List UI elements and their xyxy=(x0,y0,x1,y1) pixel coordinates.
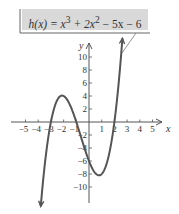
y-axis-label: y xyxy=(78,40,84,51)
y-tick-label: 6 xyxy=(83,78,88,88)
y-tick-label: 2 xyxy=(83,104,88,114)
y-tick-label: 10 xyxy=(78,52,88,62)
y-tick-label: −10 xyxy=(73,182,88,192)
x-tick-label: −4 xyxy=(31,124,41,134)
x-tick-label: 4 xyxy=(138,124,143,134)
y-tick-label: 4 xyxy=(83,91,88,101)
y-tick-label: −6 xyxy=(77,156,87,166)
x-tick-label: 1 xyxy=(99,124,104,134)
x-tick-label: −2 xyxy=(57,124,67,134)
x-tick-label: −5 xyxy=(19,124,29,134)
y-tick-label: −8 xyxy=(77,169,87,179)
plot-area: −5−4−3−2−112345108642−2−4−6−8−10xy xyxy=(0,0,179,214)
x-tick-label: 5 xyxy=(150,124,155,134)
x-axis-label: x xyxy=(165,123,171,134)
y-tick-label: 8 xyxy=(83,65,88,75)
x-tick-label: 3 xyxy=(125,124,130,134)
axes: −5−4−3−2−112345108642−2−4−6−8−10xy xyxy=(11,40,171,203)
